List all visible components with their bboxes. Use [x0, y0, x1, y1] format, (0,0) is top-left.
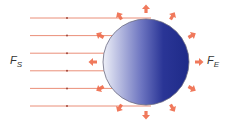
solar-flux-symbol: F: [10, 54, 17, 66]
outgoing-radiation-arrow-icon: [167, 102, 178, 113]
solar-flux-label: FS: [10, 54, 22, 69]
ray-marker: [66, 35, 68, 37]
outgoing-radiation-arrow-icon: [167, 10, 178, 21]
radiation-balance-diagram: [0, 0, 230, 125]
outgoing-radiation-arrow-icon: [142, 5, 150, 14]
ray-marker: [66, 17, 68, 19]
earth-flux-subscript: E: [214, 60, 219, 69]
planet-sphere: [103, 19, 189, 105]
outgoing-radiation-arrow-icon: [89, 58, 98, 66]
ray-marker: [66, 105, 68, 107]
outgoing-radiation-arrow-icon: [186, 30, 197, 41]
outgoing-radiation-arrow-icon: [114, 102, 125, 113]
ray-marker: [66, 52, 68, 54]
solar-flux-subscript: S: [17, 60, 22, 69]
earth-flux-symbol: F: [207, 54, 214, 66]
ray-marker: [66, 87, 68, 89]
outgoing-radiation-arrow-icon: [142, 111, 150, 120]
outgoing-radiation-arrow-icon: [195, 58, 204, 66]
ray-marker: [66, 70, 68, 72]
earth-flux-label: FE: [207, 54, 219, 69]
outgoing-radiation-arrow-icon: [186, 83, 197, 94]
outgoing-radiation-arrow-icon: [114, 10, 125, 21]
